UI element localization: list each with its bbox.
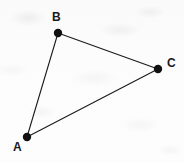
edge-ca: [27, 69, 158, 137]
geometry-figure-canvas: A B C: [0, 0, 184, 163]
triangle-diagram: [0, 0, 184, 163]
edge-ab: [27, 33, 58, 137]
vertex-label-a: A: [13, 141, 22, 153]
vertex-point-c: [154, 65, 162, 73]
vertex-label-b: B: [52, 11, 61, 23]
vertex-label-c: C: [167, 57, 176, 69]
edge-bc: [58, 33, 158, 69]
vertex-point-b: [54, 29, 62, 37]
vertex-point-a: [23, 133, 31, 141]
